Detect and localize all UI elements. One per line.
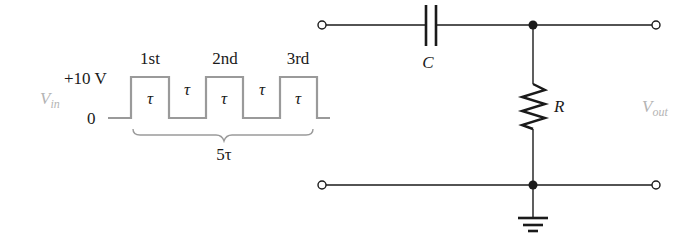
resistor-label: R <box>553 97 565 116</box>
output-top-terminal <box>652 21 660 29</box>
capacitor-symbol <box>426 5 436 46</box>
rc-circuit <box>318 5 660 231</box>
vout-label: Vout <box>642 97 668 119</box>
input-waveform: Vin +10 V 0 1st 2nd 3rd τ τ τ τ τ 5τ <box>40 49 330 164</box>
low-level-label: 0 <box>87 109 96 128</box>
vin-label: Vin <box>40 89 60 111</box>
gap-2-width-label: τ <box>259 80 266 99</box>
span-label: 5τ <box>216 145 232 164</box>
capacitor-label: C <box>422 53 434 72</box>
gap-1-width-label: τ <box>184 80 191 99</box>
pulse-2-width-label: τ <box>221 89 228 108</box>
top-junction-dot <box>529 21 538 30</box>
bottom-junction-dot <box>529 181 538 190</box>
pulse-3-label: 3rd <box>287 49 310 68</box>
high-level-label: +10 V <box>64 69 108 88</box>
pulse-2-label: 2nd <box>212 49 238 68</box>
pulse-3-width-label: τ <box>295 89 302 108</box>
rc-differentiator-figure: Vin +10 V 0 1st 2nd 3rd τ τ τ τ τ 5τ <box>0 0 697 244</box>
input-top-terminal <box>318 21 326 29</box>
resistor-symbol <box>522 84 545 129</box>
input-bottom-terminal <box>318 181 326 189</box>
span-brace <box>133 129 313 141</box>
ground-icon <box>518 218 548 231</box>
pulse-1-label: 1st <box>140 49 160 68</box>
output-bottom-terminal <box>652 181 660 189</box>
pulse-1-width-label: τ <box>147 89 154 108</box>
